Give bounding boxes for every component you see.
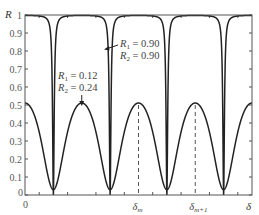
y-tick-label: 0.9 bbox=[10, 28, 23, 39]
x-axis-label: δ bbox=[246, 200, 252, 212]
series-label-high-line-1: R2 = 0.90 bbox=[119, 50, 159, 63]
annotations: δmδm+1R1 = 0.90R2 = 0.90R1 = 0.12R2 = 0.… bbox=[57, 38, 207, 214]
y-tick-label: 0 bbox=[18, 187, 23, 198]
y-tick-label: 0.4 bbox=[10, 118, 23, 129]
y-tick-label: 0.5 bbox=[10, 100, 23, 111]
y-tick-label: 0.2 bbox=[10, 154, 23, 165]
x-tick-label-0: 0 bbox=[23, 199, 28, 210]
y-tick-label: 0.6 bbox=[10, 82, 23, 93]
y-tick-label: 0.7 bbox=[10, 64, 23, 75]
reflectance-chart: 00.10.20.30.40.50.60.70.80.91 δmδm+1R1 =… bbox=[0, 0, 259, 215]
y-tick-label: 1 bbox=[17, 10, 22, 21]
x-annotation-m+1: δm+1 bbox=[189, 201, 207, 214]
arrow-head-high bbox=[104, 46, 110, 51]
y-tick-label: 0.3 bbox=[10, 136, 23, 147]
x-annotation-m: δm bbox=[133, 201, 143, 214]
y-tick-label: 0.1 bbox=[10, 172, 23, 183]
y-tick-label: 0.8 bbox=[10, 46, 23, 57]
y-axis-label: R bbox=[4, 8, 12, 20]
series-label-low-line-1: R2 = 0.24 bbox=[57, 82, 98, 95]
